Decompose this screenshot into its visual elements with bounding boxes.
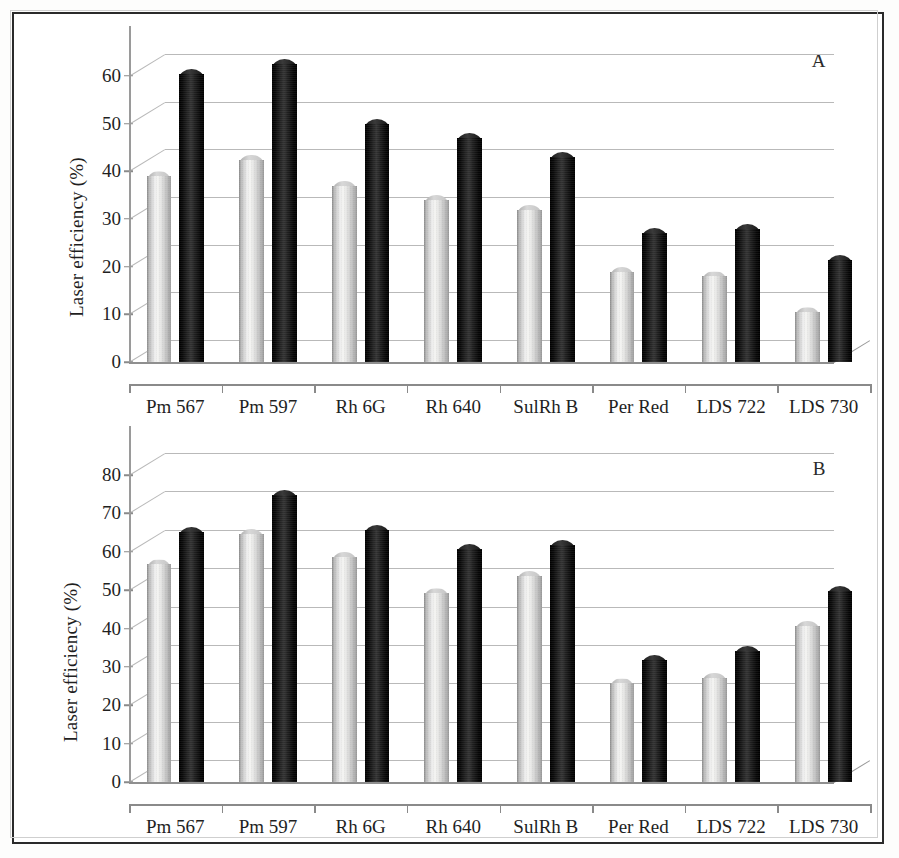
bar-body (147, 176, 172, 362)
bar-body (457, 549, 482, 782)
bar-body (239, 160, 264, 362)
gridline-riser (129, 149, 166, 172)
bar-body (610, 683, 635, 782)
bar-light-rh-6g (332, 181, 357, 362)
bar-body (272, 64, 297, 362)
bar-texture (179, 532, 204, 782)
bar-dark-per-red (642, 228, 667, 362)
bar-texture (702, 276, 727, 362)
gridline (165, 292, 834, 293)
y-axis-label: Laser efficiency (%) (66, 157, 88, 317)
bar-body (365, 124, 390, 362)
x-tick-label: Per Red (608, 816, 669, 838)
bar-body (642, 233, 667, 362)
bar-light-pm-597 (239, 529, 264, 782)
bar-body (828, 260, 853, 362)
bar-body (735, 229, 760, 362)
x-tick-mark (870, 804, 872, 813)
bar-body (795, 626, 820, 782)
bar-body (179, 74, 204, 362)
bar-texture (239, 534, 264, 782)
bar-dark-per-red (642, 655, 667, 782)
bar-light-pm-597 (239, 155, 264, 362)
bar-texture (642, 233, 667, 362)
bar-light-lds-730 (795, 621, 820, 782)
x-tick-label: Pm 567 (146, 816, 205, 838)
bar-texture (365, 124, 390, 362)
x-tick-mark (222, 384, 224, 393)
bar-dark-pm-567 (179, 527, 204, 782)
y-tick-label: 50 (81, 113, 121, 135)
bar-texture (457, 138, 482, 362)
y-tick-label: 0 (81, 771, 121, 793)
x-tick-label: Pm 567 (146, 396, 205, 418)
gridline (165, 340, 834, 341)
bar-texture (517, 210, 542, 362)
bar-body (179, 532, 204, 782)
bar-dark-sulrh-b (550, 540, 575, 782)
gridline-riser (129, 54, 166, 77)
bar-body (702, 276, 727, 362)
y-tick-label: 60 (81, 541, 121, 563)
gridline (165, 453, 834, 454)
gridline-riser (129, 530, 166, 553)
x-tick-mark (500, 804, 502, 813)
x-tick-label: Pm 597 (239, 816, 298, 838)
bar-light-sulrh-b (517, 571, 542, 782)
bar-body (828, 591, 853, 782)
bar-body (239, 534, 264, 782)
bar-dark-pm-597 (272, 59, 297, 362)
bar-texture (610, 683, 635, 782)
bar-body (332, 557, 357, 782)
x-tick-label: SulRh B (513, 816, 578, 838)
bar-texture (517, 576, 542, 782)
bar-texture (457, 549, 482, 782)
y-tick-label: 0 (81, 351, 121, 373)
bar-texture (332, 186, 357, 362)
x-tick-mark (407, 384, 409, 393)
gridline (165, 683, 834, 684)
y-tick-label: 20 (81, 694, 121, 716)
bar-light-pm-567 (147, 559, 172, 782)
y-tick-label: 50 (81, 579, 121, 601)
bar-texture (147, 564, 172, 782)
y-tick-label: 70 (81, 502, 121, 524)
y-tick-label: 10 (81, 733, 121, 755)
bar-texture (642, 660, 667, 782)
bar-body (424, 593, 449, 782)
x-tick-label: Per Red (608, 396, 669, 418)
y-tick-label: 60 (81, 65, 121, 87)
x-tick-label: Rh 6G (335, 396, 385, 418)
bar-dark-lds-722 (735, 224, 760, 362)
bar-body (550, 157, 575, 362)
x-tick-label: LDS 722 (696, 396, 765, 418)
bar-body (457, 138, 482, 362)
axis-floor-front (129, 782, 834, 784)
gridline (165, 607, 834, 608)
gridline (165, 102, 834, 103)
gridline-riser (129, 453, 166, 476)
axis-floor-front (129, 362, 834, 364)
bar-light-per-red (610, 678, 635, 782)
x-tick-mark (592, 384, 594, 393)
bar-texture (610, 272, 635, 362)
bar-texture (424, 200, 449, 362)
bar-texture (735, 229, 760, 362)
figure-root: A 0102030405060Pm 567Pm 597Rh 6GRh 640Su… (0, 0, 899, 858)
bar-texture (550, 545, 575, 782)
bar-body (610, 272, 635, 362)
panel-b-plot-area: 01020304050607080Pm 567Pm 597Rh 6GRh 640… (129, 452, 834, 782)
bar-light-rh-640 (424, 588, 449, 782)
bar-dark-pm-597 (272, 490, 297, 782)
bar-body (332, 186, 357, 362)
bar-light-rh-6g (332, 552, 357, 782)
bar-body (272, 495, 297, 782)
x-tick-label: LDS 730 (789, 396, 858, 418)
bar-texture (424, 593, 449, 782)
bar-texture (735, 651, 760, 782)
x-tick-mark (777, 804, 779, 813)
bar-dark-rh-640 (457, 133, 482, 362)
bar-dark-lds-730 (828, 586, 853, 782)
bar-dark-lds-730 (828, 255, 853, 362)
bar-texture (828, 591, 853, 782)
